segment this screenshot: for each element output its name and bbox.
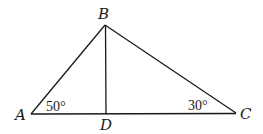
label-d: D: [99, 116, 112, 134]
label-a: A: [13, 106, 26, 124]
label-b: B: [97, 5, 109, 23]
segment-bd: [106, 25, 107, 114]
label-c: C: [240, 105, 252, 123]
angle-a-label: 50°: [46, 99, 66, 114]
triangle-diagram: B A C D 50° 30°: [0, 0, 263, 134]
segment-ab: [31, 25, 105, 114]
segment-bc: [105, 25, 236, 113]
angle-c-label: 30°: [188, 98, 208, 113]
